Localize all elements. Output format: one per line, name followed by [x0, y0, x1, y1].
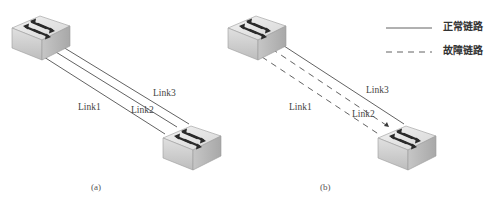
link2-label-a: Link2: [131, 106, 154, 116]
link3-label-b: Link3: [366, 86, 389, 96]
switch-top-b: [228, 16, 286, 60]
diagram-canvas: [0, 0, 491, 202]
link3-label-a: Link3: [153, 89, 176, 99]
legend-normal-label: 正常链路: [443, 22, 483, 32]
diagram-a: [12, 16, 221, 170]
legend-fault-label: 故障链路: [443, 46, 483, 56]
link1-line-a: [44, 57, 165, 134]
caption-a: (a): [91, 183, 101, 192]
switch-bottom-a: [163, 126, 221, 170]
link2-label-b: Link2: [352, 110, 375, 120]
switch-top-a: [12, 16, 70, 60]
legend: [386, 28, 432, 52]
link1-label-b: Link1: [289, 103, 312, 113]
link1-line-b: [262, 57, 380, 135]
caption-b: (b): [320, 183, 331, 192]
switch-bottom-b: [378, 126, 436, 170]
link1-label-a: Link1: [78, 103, 101, 113]
diagram-b: [228, 16, 436, 170]
